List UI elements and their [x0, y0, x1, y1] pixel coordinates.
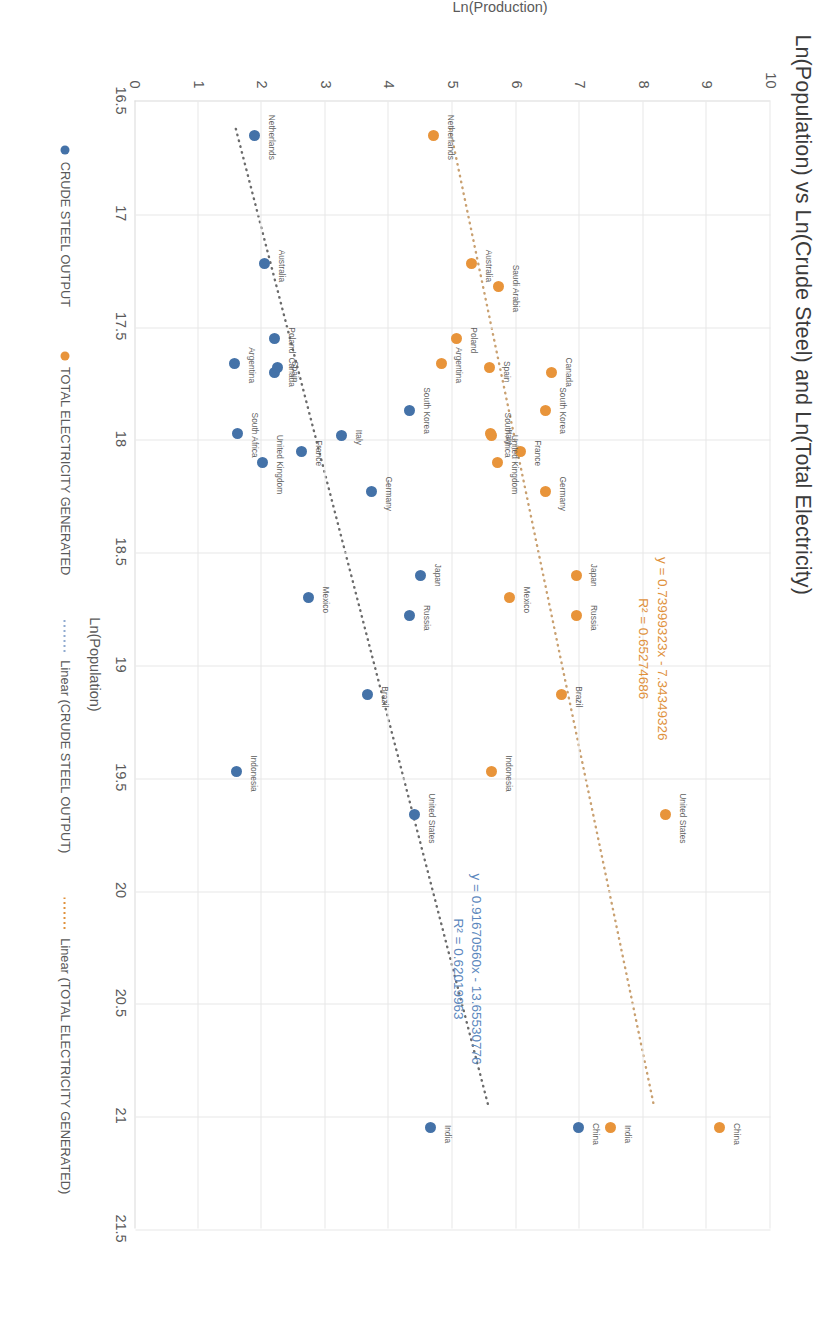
- data-point-blue[interactable]: [572, 1122, 583, 1133]
- legend-marker-icon: [60, 351, 69, 360]
- y-axis-tick-label: 0: [126, 80, 142, 88]
- data-point-orange[interactable]: [427, 129, 438, 140]
- data-point-orange[interactable]: [486, 766, 497, 777]
- data-point-blue[interactable]: [408, 808, 419, 819]
- gridline-vertical: [135, 1116, 770, 1117]
- x-axis-tick-label: 21.5: [112, 1214, 128, 1242]
- data-point-blue[interactable]: [425, 1122, 436, 1133]
- trendline-equation-electricity: y = 0.73999323x - 7.34349326 R² = 0.6527…: [633, 556, 669, 740]
- data-point-blue[interactable]: [232, 427, 243, 438]
- data-point-orange[interactable]: [540, 405, 551, 416]
- data-point-orange[interactable]: [545, 366, 556, 377]
- data-point-label: Brazil: [379, 686, 389, 707]
- data-point-orange[interactable]: [714, 1122, 725, 1133]
- data-point-label: Japan: [588, 563, 598, 586]
- data-point-blue[interactable]: [366, 486, 377, 497]
- gridline-horizontal: [769, 101, 770, 1228]
- data-point-label: China: [731, 1123, 741, 1145]
- data-point-label: Argentina: [247, 347, 257, 383]
- data-point-label: Germany: [558, 476, 568, 510]
- data-point-orange[interactable]: [485, 427, 496, 438]
- data-point-orange[interactable]: [540, 486, 551, 497]
- data-point-blue[interactable]: [230, 766, 241, 777]
- data-point-orange[interactable]: [491, 456, 502, 467]
- data-point-blue[interactable]: [295, 445, 306, 456]
- data-point-label: Australia: [483, 249, 493, 282]
- y-axis-tick-label: 3: [317, 80, 333, 88]
- data-point-orange[interactable]: [571, 610, 582, 621]
- data-point-blue[interactable]: [335, 429, 346, 440]
- y-axis-tick-label: 4: [380, 80, 396, 88]
- gridline-horizontal: [705, 101, 706, 1228]
- x-axis-tick-label: 20.5: [112, 988, 128, 1016]
- data-point-label: India: [622, 1124, 632, 1142]
- data-point-blue[interactable]: [404, 610, 415, 621]
- data-point-label: India: [442, 1124, 452, 1142]
- data-point-label: Spain: [289, 360, 299, 381]
- data-point-label: Poland: [468, 327, 478, 353]
- data-point-blue[interactable]: [257, 456, 268, 467]
- legend-marker-icon: [60, 145, 69, 154]
- x-axis-tick-label: 17.5: [112, 311, 128, 339]
- data-point-orange[interactable]: [435, 357, 446, 368]
- x-axis-tick-label: 20: [112, 882, 128, 898]
- gridline-vertical: [135, 327, 770, 328]
- data-point-orange[interactable]: [466, 258, 477, 269]
- data-point-orange[interactable]: [604, 1122, 615, 1133]
- rotated-chart-wrapper: Ln(Population) vs Ln(Crude Steel) and Ln…: [0, 0, 828, 1339]
- gridline-vertical: [135, 665, 770, 666]
- data-point-label: China: [590, 1123, 600, 1145]
- gridline-vertical: [135, 552, 770, 553]
- legend-label: CRUDE STEEL OUTPUT: [57, 161, 72, 306]
- data-point-label: South Korea: [421, 387, 431, 434]
- legend-item[interactable]: Linear (CRUDE STEEL OUTPUT): [57, 619, 72, 853]
- data-point-label: Brazil: [573, 686, 583, 707]
- data-point-label: Australia: [276, 249, 286, 282]
- data-point-label: Saudi Arabia: [510, 264, 520, 312]
- data-point-orange[interactable]: [483, 362, 494, 373]
- data-point-label: South Africa: [249, 412, 259, 457]
- data-point-blue[interactable]: [403, 405, 414, 416]
- data-point-label: Indonesia: [503, 755, 513, 791]
- data-point-blue[interactable]: [272, 362, 283, 373]
- legend-label: TOTAL ELECTRICITY GENERATED: [57, 367, 72, 575]
- x-axis-tick-label: 17: [112, 205, 128, 221]
- equation-text: y = 0.91670560x - 13.65530776: [466, 873, 484, 1064]
- data-point-orange[interactable]: [660, 808, 671, 819]
- legend-label: Linear (TOTAL ELECTRICITY GENERATED): [57, 938, 72, 1194]
- data-point-blue[interactable]: [248, 129, 259, 140]
- gridline-horizontal: [324, 101, 325, 1228]
- data-point-label: Japan: [432, 563, 442, 586]
- data-point-blue[interactable]: [302, 592, 313, 603]
- legend-item[interactable]: TOTAL ELECTRICITY GENERATED: [57, 351, 72, 575]
- data-point-orange[interactable]: [556, 689, 567, 700]
- data-point-blue[interactable]: [229, 357, 240, 368]
- legend-line-icon: [64, 619, 66, 653]
- legend-item[interactable]: CRUDE STEEL OUTPUT: [57, 145, 72, 306]
- data-point-label: Mexico: [521, 586, 531, 613]
- data-point-orange[interactable]: [571, 569, 582, 580]
- r-squared-text: R² = 0.62019963: [447, 873, 465, 1064]
- data-point-blue[interactable]: [268, 332, 279, 343]
- data-point-label: France: [532, 440, 542, 466]
- data-point-blue[interactable]: [362, 689, 373, 700]
- legend-item[interactable]: Linear (TOTAL ELECTRICITY GENERATED): [57, 897, 72, 1194]
- equation-text: y = 0.73999323x - 7.34349326: [651, 556, 669, 740]
- gridline-horizontal: [260, 101, 261, 1228]
- trendline-equation-steel: y = 0.91670560x - 13.65530776 R² = 0.620…: [447, 873, 483, 1064]
- data-point-label: United Kingdom: [274, 434, 284, 494]
- data-point-orange[interactable]: [504, 592, 515, 603]
- data-point-label: Canada: [563, 357, 573, 386]
- data-point-label: France: [313, 440, 323, 466]
- chart-legend: CRUDE STEEL OUTPUTTOTAL ELECTRICITY GENE…: [57, 0, 72, 1339]
- chart-title: Ln(Population) vs Ln(Crude Steel) and Ln…: [789, 0, 814, 1339]
- data-point-label: Indonesia: [248, 755, 258, 791]
- data-point-orange[interactable]: [492, 280, 503, 291]
- data-point-blue[interactable]: [415, 569, 426, 580]
- y-axis-tick-label: 6: [508, 80, 524, 88]
- data-point-blue[interactable]: [259, 258, 270, 269]
- data-point-label: Netherlands: [445, 114, 455, 159]
- data-point-orange[interactable]: [450, 332, 461, 343]
- data-point-label: Russia: [588, 605, 598, 631]
- chart-figure: Ln(Population) vs Ln(Crude Steel) and Ln…: [0, 0, 828, 1339]
